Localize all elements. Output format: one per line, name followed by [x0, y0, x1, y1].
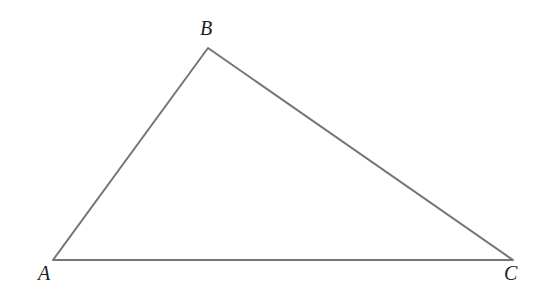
triangle-shape [0, 0, 538, 303]
triangle-outline [53, 48, 513, 260]
vertex-label-b: B [200, 18, 212, 38]
vertex-label-c: C [504, 263, 517, 283]
vertex-label-a: A [38, 263, 50, 283]
triangle-figure: A B C [0, 0, 538, 303]
